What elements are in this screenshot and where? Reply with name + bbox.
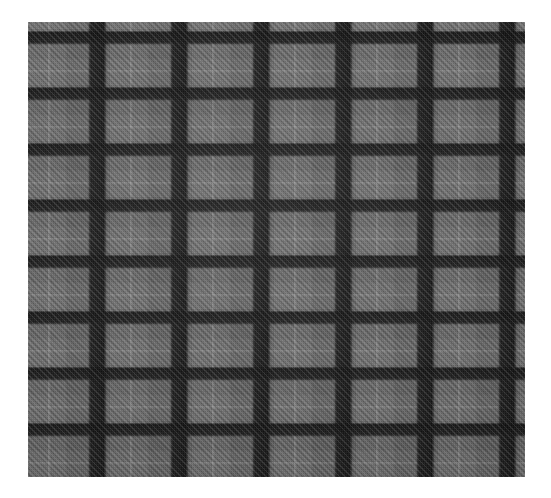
photo-vignette-layer — [28, 22, 525, 477]
fabric-overcheck-pinstripe-layer — [28, 22, 525, 477]
fabric-dark-weft-stripe-layer — [28, 22, 525, 477]
fabric-dark-warp-stripe-layer — [28, 22, 525, 477]
fabric-ground-layer — [28, 22, 525, 477]
fabric-yarn-grain-layer — [28, 22, 525, 477]
fabric-twill-diagonal-layer — [28, 22, 525, 477]
fabric-swatch-image — [28, 22, 525, 477]
fabric-mid-check-layer — [28, 22, 525, 477]
screenshot-canvas: Tartan Fabric Swatch — [0, 0, 551, 498]
page-title: Tartan Fabric Swatch — [0, 21, 1, 22]
fabric-noise-speckle-layer — [28, 22, 525, 477]
